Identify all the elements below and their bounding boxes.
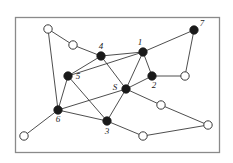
graph-edge [126, 52, 143, 89]
graph-node-label: 3 [104, 126, 110, 136]
graph-node-filled[interactable] [139, 48, 147, 56]
graph-edge [143, 30, 194, 52]
graph-node-open[interactable] [69, 41, 77, 49]
graph-node-label: 1 [138, 37, 143, 47]
graph-node-label: 2 [152, 80, 157, 90]
graph-node-filled[interactable] [54, 106, 62, 114]
graph-node-label: 4 [99, 41, 104, 51]
graph-edge [24, 110, 58, 136]
graph-node-open[interactable] [20, 132, 28, 140]
graph-node-filled[interactable] [103, 117, 111, 125]
graph-edge [143, 125, 208, 136]
graph-node-open[interactable] [139, 132, 147, 140]
graph-node-open[interactable] [44, 25, 52, 33]
graph-node-filled[interactable] [97, 52, 105, 60]
graph-node-label: 5 [76, 71, 81, 81]
graph-node-open[interactable] [181, 72, 189, 80]
graph-node-filled[interactable] [64, 72, 72, 80]
network-graph: 41752S63 [0, 0, 233, 163]
figure-root: 41752S63 [0, 0, 233, 163]
graph-edge [58, 110, 107, 121]
graph-node-label: S [113, 82, 118, 92]
graph-node-open[interactable] [157, 101, 165, 109]
graph-node-filled[interactable] [122, 85, 130, 93]
graph-edge [161, 105, 208, 125]
graph-node-filled[interactable] [190, 26, 198, 34]
graph-edge [48, 29, 58, 110]
graph-node-label: 6 [56, 114, 61, 124]
graph-edge [185, 30, 194, 76]
graph-edge [68, 76, 107, 121]
graph-edge [68, 56, 101, 76]
graph-node-filled[interactable] [148, 72, 156, 80]
graph-edge [107, 121, 143, 136]
figure-border [16, 18, 220, 153]
graph-node-label: 7 [200, 18, 205, 28]
graph-edge [58, 76, 68, 110]
graph-node-open[interactable] [204, 121, 212, 129]
graph-edge [126, 89, 161, 105]
